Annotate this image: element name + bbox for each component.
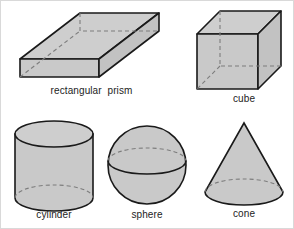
cone-lateral-surface bbox=[205, 123, 283, 205]
cone-drawing bbox=[205, 123, 283, 205]
cube-front-face bbox=[197, 34, 258, 89]
solids-canvas bbox=[1, 1, 294, 229]
rectangular-prism-drawing bbox=[20, 13, 159, 77]
sphere-drawing bbox=[108, 126, 186, 204]
label-cube: cube bbox=[209, 93, 279, 104]
sphere-outline bbox=[108, 126, 186, 204]
label-sphere: sphere bbox=[112, 209, 182, 220]
cylinder-drawing bbox=[15, 121, 93, 211]
geometric-solids-figure: rectangular prism cube cylinder sphere c… bbox=[0, 0, 294, 229]
cube-drawing bbox=[197, 11, 281, 89]
label-cone: cone bbox=[209, 208, 279, 219]
label-cylinder: cylinder bbox=[19, 209, 89, 220]
label-rectangular-prism: rectangular prism bbox=[29, 85, 154, 96]
cylinder-top-ellipse bbox=[15, 121, 93, 147]
